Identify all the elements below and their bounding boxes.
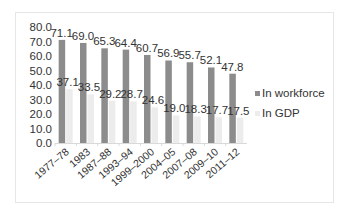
data-label: 69.0 xyxy=(72,30,94,42)
data-label: 56.9 xyxy=(157,47,179,59)
data-label: 24.6 xyxy=(142,94,164,106)
y-tick-label: 10.0 xyxy=(30,123,52,135)
data-label: 65.3 xyxy=(93,35,115,47)
bar-in-gdp xyxy=(130,101,137,143)
legend-swatch-gdp xyxy=(255,111,260,116)
data-label: 28.7 xyxy=(120,88,142,100)
data-label: 18.3 xyxy=(184,103,206,115)
data-label: 52.1 xyxy=(200,54,222,66)
data-label: 29.2 xyxy=(99,88,121,100)
data-label: 17.7 xyxy=(206,104,228,116)
data-label: 60.7 xyxy=(136,42,158,54)
data-label: 47.8 xyxy=(221,61,243,73)
y-tick-label: 60.0 xyxy=(30,50,52,62)
bar-in-gdp xyxy=(173,115,180,143)
data-label: 33.5 xyxy=(78,81,100,93)
legend-label: In GDP xyxy=(262,107,300,119)
legend-swatch-workforce xyxy=(255,91,260,96)
y-tick-label: 80.0 xyxy=(30,21,52,33)
bar-in-gdp xyxy=(66,89,73,143)
bar-in-gdp xyxy=(194,116,201,143)
legend-label: In workforce xyxy=(262,87,325,99)
data-label: 64.4 xyxy=(114,37,137,49)
bar-in-workforce xyxy=(59,40,66,143)
bar-chart: 0.010.020.030.040.050.060.070.080.071.13… xyxy=(0,0,347,216)
bar-in-gdp xyxy=(109,101,116,143)
y-tick-label: 40.0 xyxy=(30,79,52,91)
y-tick-label: 30.0 xyxy=(30,94,52,106)
data-label: 17.5 xyxy=(227,105,249,117)
data-label: 37.1 xyxy=(56,76,78,88)
data-label: 19.0 xyxy=(163,102,185,114)
bar-in-gdp xyxy=(237,118,244,143)
bar-in-gdp xyxy=(88,94,95,143)
y-tick-label: 50.0 xyxy=(30,65,52,77)
data-label: 71.1 xyxy=(50,27,72,39)
data-label: 55.7 xyxy=(178,49,200,61)
bar-in-gdp xyxy=(152,107,159,143)
y-tick-label: 70.0 xyxy=(30,36,52,48)
y-tick-label: 20.0 xyxy=(30,108,52,120)
x-tick-label: 1977–78 xyxy=(32,145,71,181)
bar-in-gdp xyxy=(216,117,223,143)
y-tick-label: 0.0 xyxy=(36,137,52,149)
